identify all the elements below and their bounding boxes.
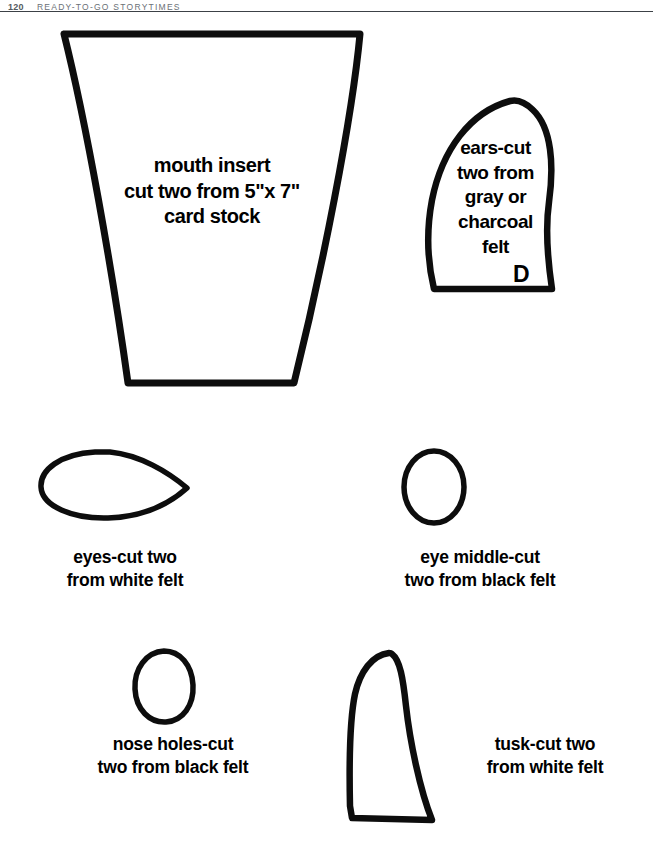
eye-middle-shape: [404, 451, 464, 523]
eye-middle-caption: eye middle-cut two from black felt: [355, 546, 605, 592]
page-folio-number: 120: [8, 2, 24, 10]
nose-holes-shape: [135, 651, 193, 722]
header-rule: [0, 11, 653, 12]
ears-caption: ears-cut two from gray or charcoal felt: [437, 136, 554, 259]
tusk-caption: tusk-cut two from white felt: [445, 733, 645, 779]
eyes-shape: [41, 452, 187, 518]
ears-piece-letter: D: [513, 261, 530, 288]
mouth-insert-caption: mouth insert cut two from 5"x 7" card st…: [63, 153, 361, 230]
nose-holes-caption: nose holes-cut two from black felt: [48, 733, 298, 779]
running-head-title: READY-TO-GO STORYTIMES: [37, 2, 181, 10]
pattern-page: 120READY-TO-GO STORYTIMES mouth insert c…: [0, 0, 653, 854]
pattern-shapes-layer: [0, 0, 653, 854]
tusk-shape: [350, 653, 432, 820]
eyes-caption: eyes-cut two from white felt: [10, 546, 240, 592]
running-head: 120READY-TO-GO STORYTIMES: [8, 0, 428, 10]
